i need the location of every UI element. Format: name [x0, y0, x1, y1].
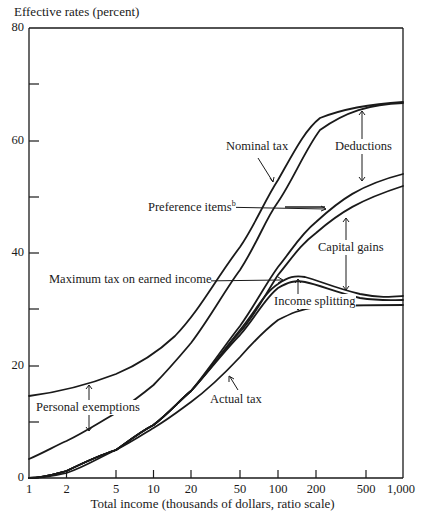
annotation-deductions: Deductions: [335, 139, 392, 154]
x-tick-500: 500: [346, 482, 386, 497]
curve-after-max-tax: [29, 281, 403, 478]
x-tick-200: 200: [296, 482, 336, 497]
x-tick-1000: 1,000: [381, 482, 421, 497]
annotation-nominal-tax: Nominal tax: [226, 139, 288, 154]
y-tick-80: 80: [0, 20, 24, 35]
x-tick-2: 2: [47, 482, 87, 497]
curves: [29, 102, 403, 478]
x-tick-50: 50: [220, 482, 260, 497]
annotation-max-tax: Maximum tax on earned income: [49, 272, 211, 287]
x-tick-20: 20: [171, 482, 211, 497]
chart-plot: [0, 0, 425, 514]
y-tick-60: 60: [0, 133, 24, 148]
annotation-income-splitting: Income splitting: [274, 294, 356, 309]
annotation-preference-items: Preference itemsb: [148, 199, 236, 215]
x-tick-100: 100: [258, 482, 298, 497]
y-tick-40: 40: [0, 245, 24, 260]
annotation-arrows: [86, 111, 365, 431]
annotation-actual-tax: Actual tax: [210, 392, 262, 407]
x-axis-title: Total income (thousands of dollars, rati…: [0, 496, 425, 512]
x-tick-1: 1: [9, 482, 49, 497]
x-tick-10: 10: [134, 482, 174, 497]
y-ticks: [29, 84, 39, 422]
curve-after-preference: [29, 186, 403, 478]
annotation-capital-gains: Capital gains: [318, 240, 384, 255]
x-tick-5: 5: [96, 482, 136, 497]
annotation-personal-exemptions: Personal exemptions: [36, 400, 140, 415]
x-ticks: [67, 470, 367, 478]
y-tick-20: 20: [0, 358, 24, 373]
